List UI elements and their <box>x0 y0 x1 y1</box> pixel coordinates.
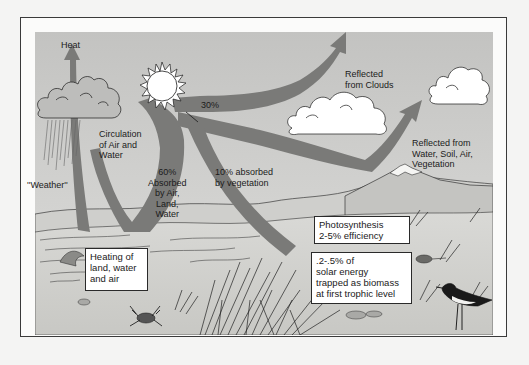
label-absorbed-60: 60% Absorbed by Air, Land, Water <box>148 167 187 220</box>
label-reflected-surface: Reflected from Water, Soil, Air, Vegetat… <box>412 138 473 170</box>
label-30-percent: 30% <box>201 100 219 111</box>
box-photosynthesis: Photosynthesis 2-5% efficiency <box>314 216 410 244</box>
label-weather: ''Weather'' <box>27 180 68 191</box>
label-heat: Heat <box>61 40 80 51</box>
label-absorbed-10: 10% absorbed by vegetation <box>215 167 273 188</box>
box-heating: Heating of land, water and air <box>85 248 148 291</box>
label-reflected-clouds: Reflected from Clouds <box>345 69 394 90</box>
label-circulation: Circulation of Air and Water <box>99 129 142 161</box>
box-biomass: .2-.5% of solar energy trapped as biomas… <box>311 252 412 304</box>
